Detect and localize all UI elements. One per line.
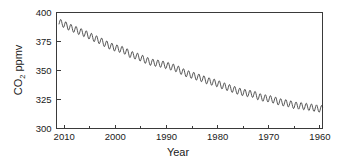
x-tick-label: 1980 bbox=[207, 131, 228, 142]
y-axis-title-prefix: CO bbox=[12, 78, 24, 95]
y-axis-title-suffix: ppmv bbox=[12, 44, 24, 74]
data-series-layer bbox=[59, 19, 322, 112]
y-tick-label: 300 bbox=[36, 123, 52, 134]
x-tick-label: 2000 bbox=[105, 131, 126, 142]
chart-figure: 201020001990198019701960 300325350375400… bbox=[0, 0, 337, 165]
y-axis-tick-labels: 300325350375400 bbox=[36, 7, 52, 134]
y-tick-label: 400 bbox=[36, 7, 52, 18]
y-axis-tick-marks bbox=[57, 13, 61, 129]
x-axis-tick-marks bbox=[64, 125, 320, 129]
y-tick-label: 375 bbox=[36, 36, 52, 47]
x-axis-tick-labels: 201020001990198019701960 bbox=[54, 131, 331, 142]
x-tick-label: 1970 bbox=[258, 131, 279, 142]
y-tick-label: 325 bbox=[36, 94, 52, 105]
y-tick-label: 350 bbox=[36, 65, 52, 76]
x-tick-label: 1990 bbox=[156, 131, 177, 142]
x-axis-title: Year bbox=[167, 146, 190, 158]
svg-text:CO2 ppmv: CO2 ppmv bbox=[12, 44, 27, 95]
x-tick-label: 2010 bbox=[54, 131, 75, 142]
x-tick-label: 1960 bbox=[309, 131, 330, 142]
y-axis-title: CO2 ppmv bbox=[12, 44, 27, 95]
plot-frame bbox=[57, 13, 323, 129]
co2-line-chart: 201020001990198019701960 300325350375400… bbox=[0, 0, 337, 165]
data-series-line bbox=[59, 19, 322, 112]
